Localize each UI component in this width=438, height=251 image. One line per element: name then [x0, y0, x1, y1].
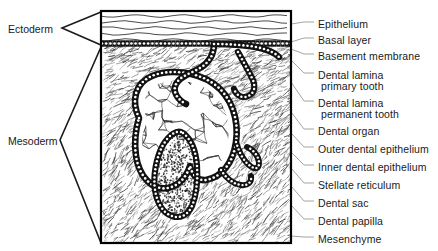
diagram-body: [100, 11, 301, 243]
label-basal-layer: Basal layer: [318, 35, 371, 46]
label-mesenchyme: Mesenchyme: [318, 234, 381, 245]
label-epithelium: Epithelium: [318, 19, 368, 30]
label-inner-dental-epithelium: Inner dental epithelium: [318, 162, 427, 173]
label-outer-dental-epithelium: Outer dental epithelium: [318, 144, 429, 155]
label-line-1: Stellate reticulum: [318, 180, 400, 191]
label-line-1: Basal layer: [318, 35, 371, 46]
label-mesoderm: Mesoderm: [8, 135, 58, 147]
label-dental-sac: Dental sac: [318, 198, 369, 209]
label-ectoderm: Ectoderm: [8, 23, 53, 35]
label-dental-lamina: Dental laminapermanent tooth: [318, 98, 399, 120]
label-basement-membrane: Basement membrane: [318, 51, 420, 62]
label-line-2: primary tooth: [318, 81, 384, 92]
label-line-1: Outer dental epithelium: [318, 144, 429, 155]
label-line-1: Inner dental epithelium: [318, 162, 427, 173]
label-dental-papilla: Dental papilla: [318, 216, 383, 227]
label-stellate-reticulum: Stellate reticulum: [318, 180, 400, 191]
figure-canvas: EpitheliumBasal layerBasement membraneDe…: [0, 0, 438, 251]
label-line-1: Dental organ: [318, 126, 379, 137]
label-line-1: Dental sac: [318, 198, 369, 209]
label-line-1: Dental papilla: [318, 216, 383, 227]
label-line-1: Epithelium: [318, 19, 368, 30]
label-dental-lamina: Dental laminaprimary tooth: [318, 70, 384, 92]
label-line-1: Mesenchyme: [318, 234, 381, 245]
label-line-2: permanent tooth: [318, 109, 399, 120]
epithelium-layer: [100, 11, 293, 47]
label-dental-organ: Dental organ: [318, 126, 379, 137]
label-line-1: Basement membrane: [318, 51, 420, 62]
